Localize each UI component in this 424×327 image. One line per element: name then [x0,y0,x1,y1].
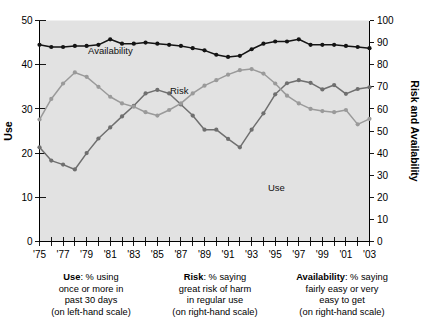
chart-container: 010203040500102030405060708090100'75'77'… [0,0,424,327]
data-point [297,78,301,82]
data-point [250,47,254,51]
data-point [37,117,41,121]
data-point [214,53,218,57]
data-point [108,125,112,129]
data-point [167,108,171,112]
data-point [356,122,360,126]
data-point [61,162,65,166]
right-axis-tick-label: 20 [377,192,389,203]
caption-line: fairly easy or very [306,284,379,294]
data-point [73,44,77,48]
data-point [214,78,218,82]
data-point [273,81,277,85]
data-point [320,109,324,113]
data-point [356,87,360,91]
data-point [191,113,195,117]
data-point [120,101,124,105]
data-point [202,128,206,132]
x-axis-tick-label: '99 [316,249,329,260]
data-point [108,37,112,41]
data-point [61,45,65,49]
x-axis-tick-label: '85 [151,249,164,260]
left-axis-tick-label: 0 [27,236,33,247]
right-axis-tick-label: 0 [377,236,383,247]
data-point [73,167,77,171]
data-point [155,42,159,46]
right-axis-tick-label: 80 [377,59,389,70]
data-point [308,81,312,85]
data-point [238,145,242,149]
data-point [132,105,136,109]
left-axis-tick-label: 20 [21,148,33,159]
data-point [191,46,195,50]
right-axis-tick-label: 30 [377,170,389,181]
right-axis-tick-label: 50 [377,126,389,137]
data-point [73,70,77,74]
x-axis-tick-label: '91 [222,249,235,260]
data-point [344,92,348,96]
data-point [143,41,147,45]
data-point [49,159,53,163]
data-point [308,107,312,111]
data-point [273,92,277,96]
x-axis-tick-label: '79 [80,249,93,260]
caption-line: (on right-hand scale) [172,307,257,317]
data-point [285,94,289,98]
data-point [344,108,348,112]
x-axis-tick-label: '03 [363,249,376,260]
data-point [332,83,336,87]
data-point [61,81,65,85]
data-point [250,67,254,71]
caption-term: Risk [184,272,204,282]
right-axis-tick-label: 10 [377,214,389,225]
data-point [332,43,336,47]
data-point [96,136,100,140]
caption-line: : % saying [345,272,388,282]
left-axis-tick-label: 40 [21,59,33,70]
caption-use: Use: % usingonce or more inpast 30 days(… [28,272,154,318]
series-label-availability: Availability [88,45,133,56]
data-point [120,114,124,118]
data-point [108,95,112,99]
data-point [37,43,41,47]
caption-line: (on left-hand scale) [51,307,131,317]
data-point [37,145,41,149]
right-axis-tick-label: 70 [377,81,389,92]
data-point [367,117,371,121]
caption-availability: Availability: % sayingfairly easy or ver… [272,272,412,318]
data-point [143,91,147,95]
data-point [238,54,242,58]
series-label-use: Use [268,182,285,193]
x-axis-tick-label: '87 [174,249,187,260]
caption-line: : % using [80,272,118,282]
series-label-risk: Risk [170,85,189,96]
data-point [332,110,336,114]
caption-line: great risk of harm [179,284,251,294]
data-point [356,45,360,49]
left-axis-title: Use [2,121,14,140]
left-axis-tick-label: 50 [21,15,33,26]
data-point [155,88,159,92]
data-point [85,151,89,155]
data-point [250,128,254,132]
right-axis-tick-label: 90 [377,37,389,48]
data-point [367,85,371,89]
caption-line: : % saying [203,272,246,282]
right-axis-tick-label: 40 [377,148,389,159]
caption-term: Use [63,272,80,282]
x-axis-tick-label: '93 [245,249,258,260]
x-axis-tick-label: '95 [269,249,282,260]
data-point [179,44,183,48]
data-point [297,101,301,105]
data-point [202,48,206,52]
data-point [261,111,265,115]
x-axis-tick-label: '77 [57,249,70,260]
x-axis-tick-label: '89 [198,249,211,260]
right-axis-title: Risk and Availability [409,80,421,181]
x-axis-tick-label: '75 [33,249,46,260]
data-point [214,128,218,132]
right-axis-tick-label: 60 [377,104,389,115]
data-point [202,84,206,88]
data-point [179,101,183,105]
data-point [96,85,100,89]
